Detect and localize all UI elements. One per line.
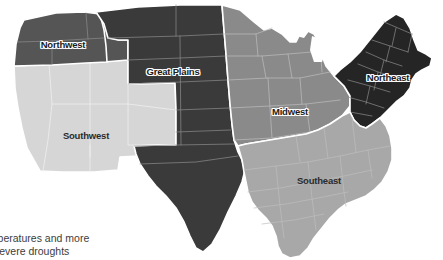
region-northeast[interactable]	[334, 14, 432, 128]
region-label-northwest[interactable]: Northwest	[41, 40, 86, 50]
caption-heading: st	[0, 219, 132, 232]
region-label-great-plains[interactable]: Great Plains	[146, 67, 199, 77]
region-label-midwest[interactable]: Midwest	[272, 107, 308, 117]
caption-block: st emperatures and more severe droughts	[0, 219, 132, 257]
caption-line-2: severe droughts	[0, 245, 132, 258]
us-climate-region-map: Northwest Great Plains Southwest Midwest…	[0, 0, 443, 260]
region-label-southeast[interactable]: Southeast	[297, 176, 341, 186]
region-label-northeast[interactable]: Northeast	[367, 73, 410, 83]
region-northeast-shape[interactable]	[334, 14, 432, 128]
region-label-southwest[interactable]: Southwest	[63, 131, 109, 141]
caption-line-1: emperatures and more	[0, 232, 132, 245]
